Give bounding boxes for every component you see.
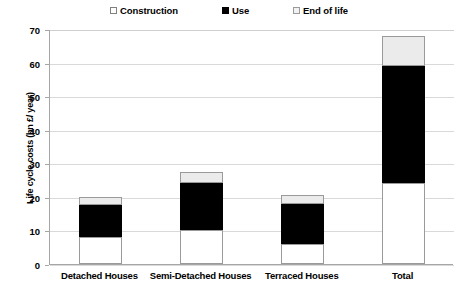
bar-segment-construction[interactable] [79, 237, 122, 264]
bar-segment-end-of-life[interactable] [180, 172, 223, 184]
legend-label-use: Use [232, 5, 249, 16]
x-axis-label: Detached Houses [49, 270, 150, 286]
legend-label-construction: Construction [120, 5, 178, 16]
bar-segment-use[interactable] [79, 205, 122, 237]
end-of-life-swatch-icon [293, 7, 300, 14]
x-axis-labels: Detached HousesSemi-Detached HousesTerra… [49, 270, 453, 286]
legend-item-end-of-life: End of life [293, 5, 348, 16]
chart-legend: Construction Use End of life [0, 2, 458, 18]
legend-item-use: Use [222, 5, 249, 16]
bar-segment-end-of-life[interactable] [79, 197, 122, 205]
legend-label-end-of-life: End of life [303, 5, 348, 16]
legend-item-construction: Construction [110, 5, 178, 16]
y-axis-title: Life cycle costs (bn £/ year) [25, 63, 35, 233]
y-tick-label-50: 50 [0, 92, 40, 103]
plot-area [49, 30, 453, 265]
bar-segment-use[interactable] [382, 66, 425, 184]
gridline-0 [50, 265, 454, 266]
y-tick-label-40: 40 [0, 125, 40, 136]
y-tick-label-30: 30 [0, 159, 40, 170]
stacked-bar[interactable] [180, 172, 223, 264]
stacked-bar[interactable] [281, 195, 324, 264]
construction-swatch-icon [110, 7, 117, 14]
x-axis-label: Total [352, 270, 453, 286]
stacked-bar-chart: Construction Use End of life Life cycle … [0, 0, 458, 294]
bar-slot [151, 29, 252, 264]
y-tick-mark-0 [45, 265, 49, 266]
bar-segment-construction[interactable] [180, 230, 223, 264]
bar-segment-construction[interactable] [281, 244, 324, 264]
y-tick-label-10: 10 [0, 226, 40, 237]
bar-slot [353, 29, 454, 264]
bar-segment-use[interactable] [281, 204, 324, 244]
bar-slot [252, 29, 353, 264]
y-tick-label-0: 0 [0, 260, 40, 271]
stacked-bar[interactable] [382, 36, 425, 264]
bar-segment-construction[interactable] [382, 183, 425, 264]
use-swatch-icon [222, 7, 229, 14]
bar-segment-end-of-life[interactable] [382, 36, 425, 66]
bar-segment-end-of-life[interactable] [281, 195, 324, 203]
bar-group [50, 29, 454, 264]
y-tick-label-20: 20 [0, 192, 40, 203]
bar-segment-use[interactable] [180, 183, 223, 230]
y-tick-label-70: 70 [0, 25, 40, 36]
x-axis-label: Terraced Houses [251, 270, 352, 286]
stacked-bar[interactable] [79, 197, 122, 264]
x-axis-label: Semi-Detached Houses [150, 270, 252, 286]
bar-slot [50, 29, 151, 264]
y-tick-label-60: 60 [0, 58, 40, 69]
